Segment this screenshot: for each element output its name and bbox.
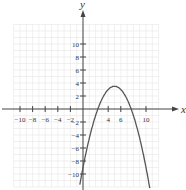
svg-text:4: 4	[106, 116, 110, 124]
svg-text:4: 4	[76, 80, 80, 88]
svg-text:−4: −4	[54, 116, 62, 124]
svg-text:10: 10	[72, 41, 80, 49]
svg-text:−2: −2	[72, 119, 80, 127]
svg-text:−10: −10	[68, 171, 79, 179]
svg-text:8: 8	[76, 54, 80, 62]
svg-text:−6: −6	[72, 145, 80, 153]
svg-text:−8: −8	[29, 116, 37, 124]
svg-text:6: 6	[119, 116, 123, 124]
svg-text:6: 6	[76, 67, 80, 75]
svg-text:−6: −6	[41, 116, 49, 124]
svg-text:10: 10	[143, 116, 151, 124]
svg-text:−8: −8	[72, 158, 80, 166]
parabola-graph: xy−10−8−6−4−24610108642−2−4−6−8−10	[0, 0, 186, 190]
svg-text:−10: −10	[15, 116, 26, 124]
svg-text:−4: −4	[72, 132, 80, 140]
svg-text:y: y	[79, 0, 85, 10]
svg-text:x: x	[180, 103, 186, 115]
chart: xy−10−8−6−4−24610108642−2−4−6−8−10	[0, 0, 186, 190]
svg-text:2: 2	[76, 93, 80, 101]
